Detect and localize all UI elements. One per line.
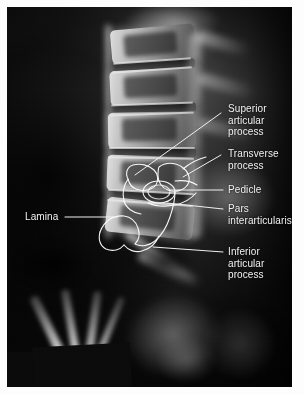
leader-inferior-articular-process xyxy=(153,247,223,252)
label-lamina: Lamina xyxy=(25,211,58,223)
radiograph-image: Superior articular process Transverse pr… xyxy=(7,7,292,387)
outline-upper-arch xyxy=(123,179,141,214)
figure-page: Superior articular process Transverse pr… xyxy=(0,0,304,395)
outline-inferior-articular-process xyxy=(124,236,159,252)
anatomy-overlay-tracing xyxy=(7,7,292,387)
label-superior-articular-process: Superior articular process xyxy=(228,103,267,138)
label-pedicle: Pedicle xyxy=(228,184,262,196)
outline-facet-line xyxy=(175,181,197,185)
label-pars-interarticularis: Pars interarticularis xyxy=(228,203,292,226)
outline-pars-interarticularis xyxy=(148,193,196,206)
outline-posterior-spur xyxy=(183,157,206,169)
leader-superior-articular-process xyxy=(135,113,221,175)
label-transverse-process: Transverse process xyxy=(228,148,279,171)
label-inferior-articular-process: Inferior articular process xyxy=(228,246,264,281)
outline-pedicle-inner xyxy=(148,185,170,199)
leader-pars-interarticularis xyxy=(167,203,223,209)
outline-lamina-lower-edge xyxy=(99,232,124,250)
outline-lamina-inferior-process xyxy=(100,192,175,246)
